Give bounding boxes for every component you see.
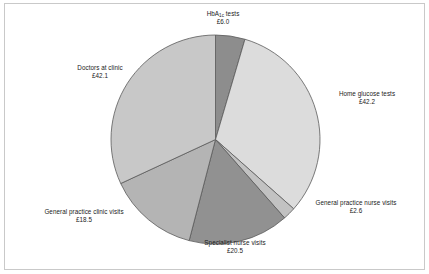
slice-label-general-practice-clinic-visits: General practice clinic visits £18.5 — [8, 208, 160, 224]
slice-label-home-glucose-tests-value: £42.2 — [308, 98, 426, 106]
slice-label-general-practice-clinic-visits-name: General practice clinic visits — [8, 208, 160, 216]
slice-label-hba1c-tests: HbA1c tests £6.0 — [163, 10, 283, 26]
slice-label-hba1c-tests-value: £6.0 — [163, 18, 283, 26]
slice-label-doctors-at-clinic: Doctors at clinic £42.1 — [40, 64, 160, 80]
hba1c-subscript: 1c — [219, 13, 224, 18]
slice-label-home-glucose-tests-name: Home glucose tests — [308, 90, 426, 98]
slice-label-specialist-nurse-visits-name: Specialist nurse visits — [165, 239, 305, 247]
slice-label-general-practice-nurse-visits-name: General practice nurse visits — [285, 199, 427, 207]
slice-label-doctors-at-clinic-value: £42.1 — [40, 72, 160, 80]
slice-label-general-practice-nurse-visits: General practice nurse visits £2.6 — [285, 199, 427, 215]
slice-label-hba1c-tests-name: HbA1c tests — [163, 10, 283, 18]
slice-label-specialist-nurse-visits-value: £20.5 — [165, 247, 305, 255]
slice-label-general-practice-nurse-visits-value: £2.6 — [285, 207, 427, 215]
slice-label-general-practice-clinic-visits-value: £18.5 — [8, 216, 160, 224]
pie-chart-figure: HbA1c tests £6.0 Home glucose tests £42.… — [0, 0, 429, 274]
slice-label-doctors-at-clinic-name: Doctors at clinic — [40, 64, 160, 72]
slice-label-specialist-nurse-visits: Specialist nurse visits £20.5 — [165, 239, 305, 255]
slice-label-home-glucose-tests: Home glucose tests £42.2 — [308, 90, 426, 106]
plot-area: HbA1c tests £6.0 Home glucose tests £42.… — [0, 0, 429, 274]
pie-svg — [0, 0, 429, 274]
